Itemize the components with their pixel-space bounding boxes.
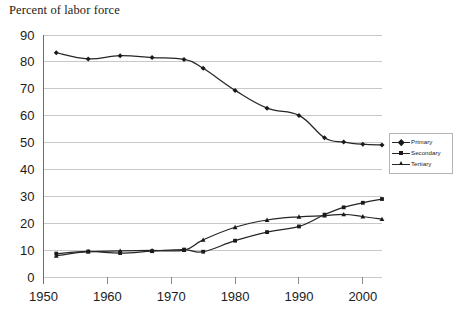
y-axis-tick-label: 90 — [20, 28, 34, 43]
series-line-secondary — [56, 199, 382, 254]
data-point-marker — [265, 106, 270, 111]
data-point-marker — [380, 142, 385, 147]
y-axis-tick-label: 20 — [20, 216, 34, 231]
x-axis-tick-label: 2000 — [348, 289, 377, 304]
legend-label-tertiary: Tertiary — [410, 161, 431, 167]
data-point-marker — [182, 57, 187, 62]
data-point-marker — [361, 201, 365, 205]
legend-item-secondary: Secondary — [392, 148, 450, 158]
data-point-marker — [380, 197, 384, 201]
legend-label-secondary: Secondary — [410, 150, 441, 156]
y-axis-labels-group: 0102030405060708090 — [20, 28, 34, 285]
data-point-marker — [265, 230, 269, 234]
data-point-marker — [150, 55, 155, 60]
x-axis-tick-label: 1970 — [157, 289, 186, 304]
x-axis-tick-label: 1980 — [221, 289, 250, 304]
data-point-marker — [54, 50, 59, 55]
y-axis-tick-label: 10 — [20, 243, 34, 258]
series-primary — [54, 50, 385, 147]
data-point-marker — [296, 113, 301, 118]
series-line-primary — [56, 53, 382, 145]
x-axis-tick-label: 1990 — [285, 289, 314, 304]
y-axis-tick-label: 70 — [20, 81, 34, 96]
x-axis-tick-label: 1960 — [93, 289, 122, 304]
legend-label-primary: Primary — [410, 139, 432, 145]
y-axis-tick-label: 80 — [20, 54, 34, 69]
y-axis-tick-label: 30 — [20, 189, 34, 204]
data-point-marker — [201, 250, 205, 254]
data-point-marker — [86, 56, 91, 61]
gridlines-group — [44, 35, 383, 277]
legend-item-primary: Primary — [392, 137, 450, 147]
data-point-marker — [341, 140, 346, 145]
chart-container: Percent of labor force 01020304050607080… — [0, 0, 461, 319]
legend-marker-square-icon — [392, 149, 410, 158]
data-point-marker — [118, 53, 123, 58]
legend-marker-diamond-icon — [392, 138, 410, 147]
series-tertiary — [54, 212, 385, 258]
chart-legend: Primary Secondary Tertiary — [389, 133, 453, 174]
data-point-marker — [342, 205, 346, 209]
y-axis-tick-label: 40 — [20, 162, 34, 177]
legend-item-tertiary: Tertiary — [392, 159, 450, 169]
data-point-marker — [297, 225, 301, 229]
data-series-group — [54, 50, 385, 257]
x-axis-tick-label: 1950 — [29, 289, 58, 304]
series-line-tertiary — [56, 214, 382, 255]
series-secondary — [54, 197, 384, 255]
y-axis-tick-label: 60 — [20, 108, 34, 123]
y-axis-tick-label: 0 — [27, 270, 34, 285]
x-axis-tickmarks-group — [44, 277, 363, 284]
x-axis-labels-group: 195019601970198019902000 — [29, 289, 377, 304]
data-point-marker — [233, 239, 237, 243]
y-axis-tick-label: 50 — [20, 135, 34, 150]
legend-marker-triangle-icon — [392, 160, 410, 169]
